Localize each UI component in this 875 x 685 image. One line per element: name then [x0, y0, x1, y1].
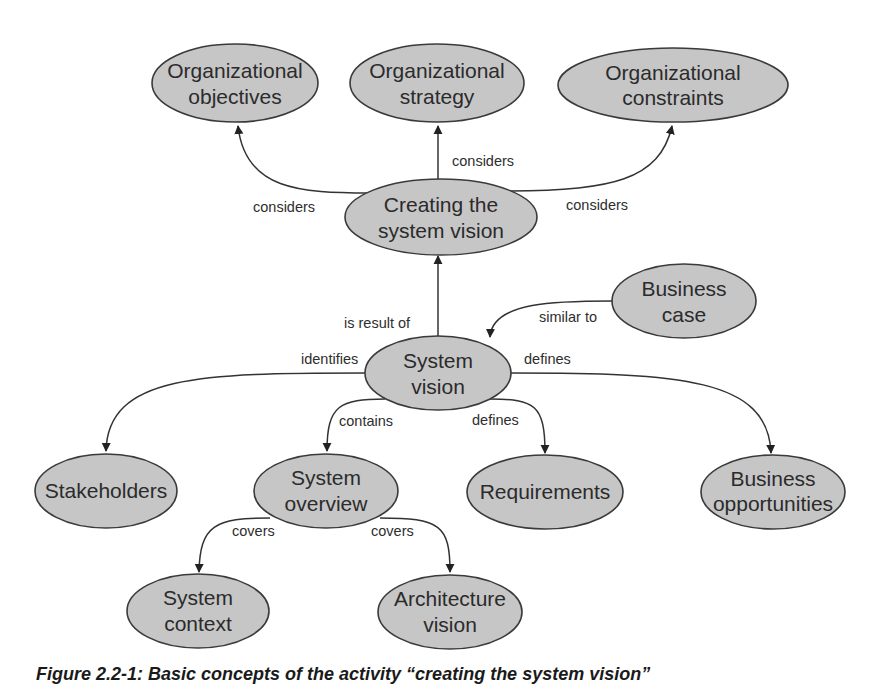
node-label-line2: context [164, 612, 232, 635]
edge-label-considers-constraints: considers [566, 197, 628, 213]
edge-label-covers-architecture: covers [371, 523, 414, 539]
node-label-line2: constraints [622, 86, 724, 109]
node-label-line1: Business [641, 277, 726, 300]
edge-label-defines-requirements: defines [472, 412, 519, 428]
node-label-line1: System [163, 586, 233, 609]
node-system-context: System context [127, 574, 269, 648]
node-label-line1: Business [730, 467, 815, 490]
node-creating-system-vision: Creating the system vision [345, 179, 537, 255]
node-business-case: Business case [612, 264, 756, 338]
node-architecture-vision: Architecture vision [378, 575, 522, 649]
node-label-line1: Requirements [480, 480, 611, 503]
node-label-line1: Organizational [605, 61, 740, 84]
edge-label-considers-strategy: considers [452, 153, 514, 169]
node-label-line1: Architecture [394, 587, 506, 610]
edge-defines-opportunities [511, 373, 771, 453]
node-label-line2: case [662, 303, 706, 326]
node-label-line2: opportunities [713, 492, 833, 515]
node-org-constraints: Organizational constraints [558, 48, 788, 122]
edge-considers-objectives [238, 126, 370, 193]
node-business-opportunities: Business opportunities [701, 455, 845, 529]
node-label-line2: vision [411, 375, 465, 398]
node-label-line2: system vision [378, 219, 504, 242]
node-org-objectives: Organizational objectives [152, 44, 318, 122]
node-label-line1: System [403, 349, 473, 372]
node-stakeholders: Stakeholders [35, 454, 177, 528]
edge-label-covers-context: covers [232, 523, 275, 539]
node-label-line1: Organizational [369, 59, 504, 82]
node-label-line1: System [291, 466, 361, 489]
node-label-line2: objectives [188, 85, 281, 108]
node-label-line1: Stakeholders [45, 479, 168, 502]
node-system-overview: System overview [254, 454, 398, 528]
edge-label-identifies: identifies [301, 351, 358, 367]
edge-identifies [106, 373, 365, 451]
node-label-line1: Organizational [167, 59, 302, 82]
node-system-vision: System vision [365, 336, 511, 410]
node-label-line1: Creating the [384, 193, 498, 216]
edge-considers-constraints [510, 126, 672, 191]
edge-label-defines-opportunities: defines [524, 351, 571, 367]
node-org-strategy: Organizational strategy [350, 44, 524, 122]
node-label-line2: overview [285, 492, 369, 515]
node-label-line2: vision [423, 613, 477, 636]
node-requirements: Requirements [467, 455, 623, 529]
figure-caption: Figure 2.2-1: Basic concepts of the acti… [36, 664, 650, 685]
edge-label-similar-to: similar to [539, 309, 597, 325]
node-label-line2: strategy [400, 85, 475, 108]
edge-label-is-result-of: is result of [344, 315, 411, 331]
edge-label-considers-objectives: considers [253, 199, 315, 215]
edge-label-contains: contains [339, 413, 393, 429]
